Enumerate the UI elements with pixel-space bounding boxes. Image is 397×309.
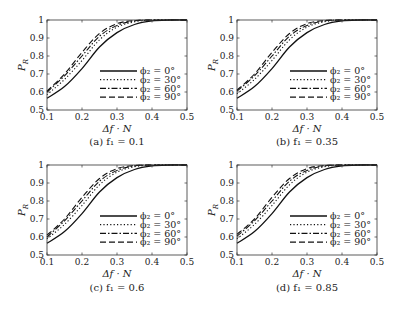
x-tick-label: 0.3 [110,112,125,122]
y-tick-label: 0.8 [220,51,235,61]
y-tick-label: 0.6 [30,232,45,242]
x-tick-label: 0.2 [75,112,89,122]
x-tick-label: 0.3 [300,112,315,122]
legend-label: ϕ₂ = 90° [140,91,181,102]
figure: (a) f₁ = 0.1 0.10.20.30.40.50.50.60.70.8… [0,0,397,309]
legend-label: ϕ₂ = 90° [330,91,371,102]
y-tick-label: 0.6 [220,232,235,242]
panel-caption: (c) f₁ = 0.6 [90,282,145,293]
x-tick-label: 0.5 [180,112,195,122]
legend: ϕ₂ = 0°ϕ₂ = 30°ϕ₂ = 60°ϕ₂ = 90° [100,65,181,102]
y-tick-label: 0.8 [220,196,235,206]
x-axis-label: Δf · N [291,123,322,134]
x-tick-label: 0.5 [180,257,195,267]
legend-label: ϕ₂ = 90° [330,236,371,247]
x-axis-label: Δf · N [291,268,322,279]
x-tick-label: 0.5 [370,257,385,267]
legend: ϕ₂ = 0°ϕ₂ = 30°ϕ₂ = 60°ϕ₂ = 90° [100,210,181,247]
y-tick-label: 1 [38,160,44,170]
legend: ϕ₂ = 0°ϕ₂ = 30°ϕ₂ = 60°ϕ₂ = 90° [290,210,371,247]
y-tick-label: 0.8 [30,51,45,61]
y-tick-label: 0.7 [220,214,235,224]
y-tick-label: 0.9 [30,178,45,188]
y-tick-label: 0.7 [30,214,45,224]
y-tick-label: 0.7 [220,69,235,79]
x-tick-label: 0.4 [145,112,160,122]
panel-caption: (d) f₁ = 0.85 [276,282,338,293]
y-tick-label: 1 [38,15,44,25]
y-tick-label: 0.7 [30,69,45,79]
y-axis-label: PR [16,58,30,72]
panel-a: (a) f₁ = 0.1 0.10.20.30.40.50.50.60.70.8… [16,15,194,147]
y-tick-label: 0.9 [220,33,235,43]
y-tick-label: 0.5 [30,105,45,115]
y-axis-label: PR [206,203,220,217]
y-axis-label: PR [16,203,30,217]
y-tick-label: 1 [228,15,234,25]
x-axis-label: Δf · N [101,268,132,279]
x-tick-label: 0.2 [75,257,89,267]
legend: ϕ₂ = 0°ϕ₂ = 30°ϕ₂ = 60°ϕ₂ = 90° [290,65,371,102]
y-tick-label: 0.9 [30,33,45,43]
x-tick-label: 0.3 [300,257,315,267]
x-tick-label: 0.4 [335,112,350,122]
panel-caption: (a) f₁ = 0.1 [89,136,144,147]
figure-canvas: (a) f₁ = 0.1 0.10.20.30.40.50.50.60.70.8… [0,0,397,309]
y-tick-label: 0.5 [220,105,235,115]
panel-d: (d) f₁ = 0.85 0.10.20.30.40.50.50.60.70.… [206,160,384,293]
y-axis-label: PR [206,58,220,72]
panel-c: (c) f₁ = 0.6 0.10.20.30.40.50.50.60.70.8… [16,160,194,293]
y-tick-label: 0.5 [220,250,235,260]
y-tick-label: 0.9 [220,178,235,188]
y-tick-label: 0.8 [30,196,45,206]
y-tick-label: 0.6 [220,87,235,97]
x-tick-label: 0.2 [265,112,279,122]
x-tick-label: 0.2 [265,257,279,267]
legend-label: ϕ₂ = 90° [140,236,181,247]
y-tick-label: 0.5 [30,250,45,260]
x-tick-label: 0.5 [370,112,385,122]
x-tick-label: 0.4 [335,257,350,267]
panel-caption: (b) f₁ = 0.35 [276,136,338,147]
x-axis-label: Δf · N [101,123,132,134]
panel-b: (b) f₁ = 0.35 0.10.20.30.40.50.50.60.70.… [206,15,384,147]
x-tick-label: 0.3 [110,257,125,267]
y-tick-label: 1 [228,160,234,170]
y-tick-label: 0.6 [30,87,45,97]
x-tick-label: 0.4 [145,257,160,267]
